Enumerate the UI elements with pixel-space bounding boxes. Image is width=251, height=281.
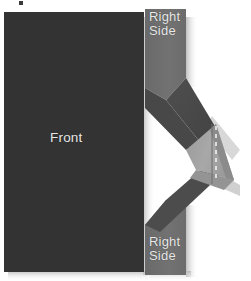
front-panel-texture [4, 12, 144, 272]
scan-artifact [19, 1, 23, 5]
diagram-canvas: Front Right Side Right Side [0, 0, 251, 281]
fold-diagram-illustration [0, 0, 251, 281]
